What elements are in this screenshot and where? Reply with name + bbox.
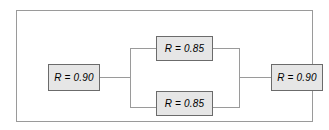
component-label-right: R = 0.90 — [277, 72, 317, 82]
wire-merge-bus — [239, 48, 240, 108]
diagram-frame: R = 0.90 R = 0.85 R = 0.85 R = 0.90 — [16, 10, 313, 122]
component-block-bottom: R = 0.85 — [156, 91, 213, 116]
wire-split-bus — [130, 48, 131, 108]
wire-left-to-split — [100, 77, 130, 78]
component-label-bottom: R = 0.85 — [165, 98, 205, 108]
reliability-block-diagram: R = 0.90 R = 0.85 R = 0.85 R = 0.90 — [0, 0, 329, 130]
component-block-left: R = 0.90 — [48, 64, 100, 91]
component-block-right: R = 0.90 — [271, 64, 323, 91]
component-label-top: R = 0.85 — [165, 43, 205, 53]
component-block-top: R = 0.85 — [156, 36, 213, 61]
wire-split-to-top-block — [130, 48, 156, 49]
wire-merge-to-right — [239, 77, 271, 78]
component-label-left: R = 0.90 — [54, 72, 94, 82]
wire-top-block-to-merge — [213, 48, 239, 49]
wire-split-to-bottom-block — [130, 107, 156, 108]
wire-bottom-block-to-merge — [213, 107, 239, 108]
